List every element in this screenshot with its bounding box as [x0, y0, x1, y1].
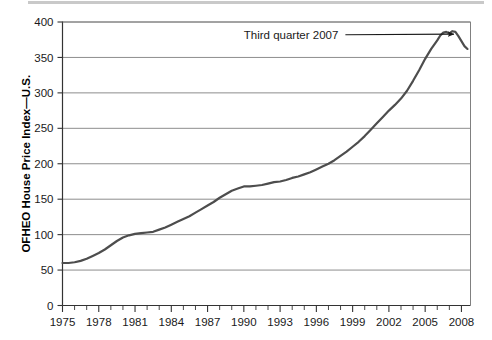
x-tick-label-2008: 2008 — [449, 316, 475, 328]
x-tick-label-1987: 1987 — [195, 316, 221, 328]
x-tick-label-1984: 1984 — [159, 316, 185, 328]
y-tick-label-350: 350 — [34, 52, 53, 64]
y-tick-label-200: 200 — [34, 158, 53, 170]
x-tick-label-1990: 1990 — [231, 316, 257, 328]
y-tick-label-250: 250 — [34, 122, 53, 134]
line-chart: 050100150200250300350400 197519781981198… — [0, 0, 492, 340]
x-tick-label-1993: 1993 — [267, 316, 293, 328]
y-tick-label-300: 300 — [34, 87, 53, 99]
y-tick-label-400: 400 — [34, 16, 53, 28]
x-tick-label-1975: 1975 — [50, 316, 76, 328]
x-tick-label-1978: 1978 — [86, 316, 112, 328]
annotation-group: Third quarter 2007 — [244, 29, 454, 41]
x-tick-label-2005: 2005 — [412, 316, 438, 328]
annotation-label-third-quarter-2007: Third quarter 2007 — [244, 29, 339, 41]
data-series-group — [63, 31, 468, 263]
x-tick-label-1999: 1999 — [340, 316, 366, 328]
series-line-ofheo-house-price-index — [63, 31, 468, 263]
chart-figure: 050100150200250300350400 197519781981198… — [0, 0, 492, 340]
y-tick-label-100: 100 — [34, 229, 53, 241]
x-tick-label-2002: 2002 — [376, 316, 402, 328]
y-tick-label-0: 0 — [47, 300, 53, 312]
x-axis-ticks-group: 1975197819811984198719901993199619992002… — [50, 306, 475, 328]
y-tick-label-50: 50 — [41, 264, 54, 276]
x-tick-label-1996: 1996 — [304, 316, 330, 328]
gridlines-group — [63, 22, 471, 270]
y-axis-ticks-group: 050100150200250300350400 — [34, 16, 62, 312]
y-axis-title: OFHEO House Price Index—U.S. — [20, 75, 32, 253]
annotation-arrow-icon — [345, 34, 454, 35]
y-tick-label-150: 150 — [34, 193, 53, 205]
x-tick-label-1981: 1981 — [122, 316, 148, 328]
